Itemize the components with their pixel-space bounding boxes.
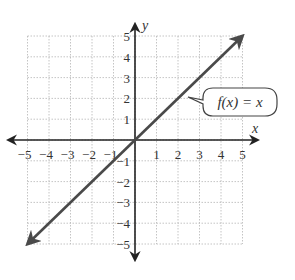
y-tick-label: −3: [116, 195, 130, 210]
y-tick-label: 1: [124, 112, 131, 127]
x-tick-labels: −5−4−3−2−112345: [18, 147, 246, 162]
y-tick-label: 4: [124, 50, 131, 65]
x-tick-label: 1: [153, 147, 160, 162]
x-tick-label: −3: [61, 147, 75, 162]
y-axis-label: y: [140, 18, 149, 33]
x-tick-label: −4: [39, 147, 53, 162]
x-tick-label: 5: [239, 147, 246, 162]
y-tick-label: −2: [116, 175, 130, 190]
callout-text: f(x) = x: [217, 94, 262, 111]
y-tick-label: 3: [124, 71, 131, 86]
function-callout: f(x) = x: [188, 88, 277, 116]
x-tick-label: −5: [18, 147, 32, 162]
x-tick-label: 4: [218, 147, 225, 162]
chart: −5−4−3−2−112345 54321−1−2−3−4−5 x y f(x)…: [0, 0, 295, 280]
y-tick-label: 2: [124, 91, 131, 106]
y-tick-label: −4: [116, 216, 130, 231]
y-tick-label: −5: [116, 237, 130, 252]
x-axis-label: x: [251, 121, 259, 136]
y-tick-label: 5: [124, 29, 131, 44]
x-tick-label: −2: [82, 147, 96, 162]
x-tick-label: 2: [175, 147, 182, 162]
x-tick-label: 3: [196, 147, 203, 162]
